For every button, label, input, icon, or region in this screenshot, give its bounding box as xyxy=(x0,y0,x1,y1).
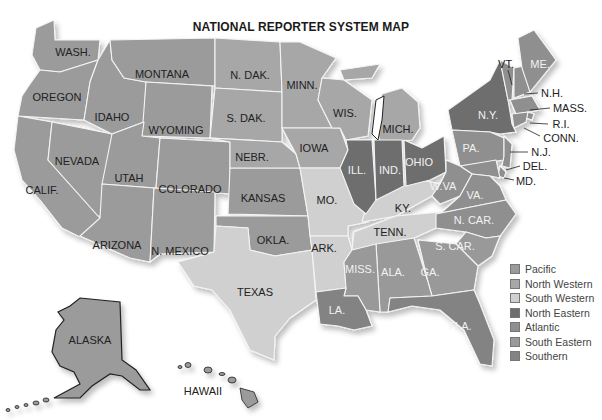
legend-label: North Eastern xyxy=(525,307,590,319)
legend-label: South Eastern xyxy=(525,336,592,348)
swatch-icon xyxy=(510,351,520,361)
legend-label: Southern xyxy=(525,350,568,362)
swatch-icon xyxy=(510,308,520,318)
legend-item-southern: Southern xyxy=(510,349,594,364)
swatch-icon xyxy=(510,264,520,274)
legend-item-pacific: Pacific xyxy=(510,262,594,277)
swatch-icon xyxy=(510,322,520,332)
legend: Pacific North Western South Western Nort… xyxy=(510,262,594,364)
legend-label: North Western xyxy=(525,278,593,290)
legend-item-atlantic: Atlantic xyxy=(510,320,594,335)
legend-label: South Western xyxy=(525,292,594,304)
legend-item-north-western: North Western xyxy=(510,277,594,292)
swatch-icon xyxy=(510,337,520,347)
legend-item-north-eastern: North Eastern xyxy=(510,306,594,321)
legend-label: Atlantic xyxy=(525,321,559,333)
swatch-icon xyxy=(510,293,520,303)
swatch-icon xyxy=(510,279,520,289)
legend-item-south-eastern: South Eastern xyxy=(510,335,594,350)
legend-item-south-western: South Western xyxy=(510,291,594,306)
legend-label: Pacific xyxy=(525,263,556,275)
